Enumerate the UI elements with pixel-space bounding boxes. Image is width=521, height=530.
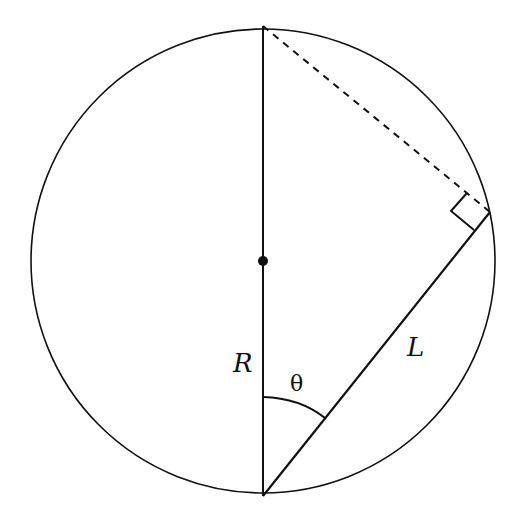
chord-L — [263, 212, 490, 496]
label-R: R — [232, 348, 253, 378]
center-point — [258, 256, 268, 266]
circle-chord-diagram: R θ L — [0, 0, 521, 530]
angle-theta-arc — [263, 397, 325, 418]
right-angle-marker — [451, 193, 474, 230]
dashed-segment — [263, 26, 490, 212]
label-theta: θ — [290, 371, 303, 396]
label-L: L — [406, 332, 424, 362]
